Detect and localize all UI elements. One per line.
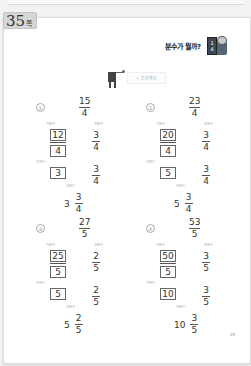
problem-1: ① 15 4 가분수 진분수 12 4 3 4 자연수 3 3 4 대분수 3 … [36, 97, 136, 217]
page-tag-suffix: 쪽 [26, 18, 32, 28]
mixed-number-result: 5 2 5 [64, 314, 83, 335]
label-improper: 가분수 [46, 242, 55, 247]
numerator: 2 [93, 252, 99, 261]
numerator: 3 [203, 165, 209, 174]
numerator: 3 [76, 193, 82, 202]
boxed-denominator: 5 [160, 266, 176, 278]
natural-number: 10 [160, 288, 176, 300]
whole: 10 [174, 320, 185, 330]
numerator: 3 [203, 131, 209, 140]
problem-2: ② 23 4 가분수 진분수 20 4 3 4 자연수 5 3 4 대분수 5 … [146, 97, 246, 217]
numerator: 2 [93, 286, 99, 295]
denominator: 4 [76, 205, 82, 214]
numerator: 3 [203, 286, 209, 295]
numerator: 2 [76, 314, 82, 323]
denominator: 4 [93, 177, 99, 186]
problem-4: ④ 53 5 가분수 진분수 50 5 3 5 자연수 10 3 5 대분수 1… [146, 218, 246, 338]
whole: 5 [174, 199, 180, 209]
label-mixed: 대분수 [66, 183, 75, 188]
previous-page-edge [8, 0, 244, 5]
boxed-denominator: 5 [50, 266, 66, 278]
numerator: 3 [192, 314, 198, 323]
label-proper: 진분수 [204, 242, 213, 247]
boxed-numerator: 50 [160, 250, 176, 262]
label-natural: 자연수 [36, 280, 45, 285]
section-label: ✎ 인공계산 [127, 72, 166, 84]
denominator: 5 [76, 326, 82, 335]
denominator: 4 [192, 109, 198, 118]
denominator: 5 [192, 230, 198, 239]
natural-number: 5 [160, 167, 176, 179]
whole: 5 [64, 320, 70, 330]
label-mixed: 대분수 [176, 304, 185, 309]
numerator: 23 [189, 97, 200, 106]
label-natural: 자연수 [146, 159, 155, 164]
proper-fraction: 3 4 [202, 131, 210, 152]
mixed-number-result: 10 3 5 [174, 314, 198, 335]
mixed-number-result: 3 3 4 [64, 193, 83, 214]
proper-fraction-2: 3 5 [202, 286, 210, 307]
denominator: 4 [82, 109, 88, 118]
boxed-numerator: 25 [50, 250, 66, 262]
denominator: 5 [93, 298, 99, 307]
numerator: 53 [189, 218, 200, 227]
denominator: 4 [203, 177, 209, 186]
numerator: 3 [186, 193, 192, 202]
mixed-number-result: 5 3 4 [174, 193, 193, 214]
whole: 3 [64, 199, 70, 209]
label-natural: 자연수 [146, 280, 155, 285]
label-natural: 자연수 [36, 159, 45, 164]
natural-number: 3 [50, 167, 66, 179]
proper-fraction: 3 5 [202, 252, 210, 273]
page-tag-number: 35 [6, 13, 25, 29]
problem-number: ④ [146, 224, 155, 233]
improper-fraction: 27 5 [79, 218, 90, 239]
natural-number: 5 [50, 288, 66, 300]
page-number: 35 [230, 332, 235, 337]
boxed-numerator: 12 [50, 129, 66, 141]
denominator: 5 [82, 230, 88, 239]
improper-fraction: 15 4 [79, 97, 90, 118]
flag-icon [108, 68, 124, 88]
problem-number: ③ [36, 224, 45, 233]
problem-number: ② [146, 103, 155, 112]
label-proper: 진분수 [204, 121, 213, 126]
problem-3: ③ 27 5 가분수 진분수 25 5 2 5 자연수 5 2 5 대분수 5 … [36, 218, 136, 338]
denominator: 4 [93, 143, 99, 152]
label-mixed: 대분수 [176, 183, 185, 188]
boxed-denominator: 4 [160, 145, 176, 157]
label-improper: 가분수 [46, 121, 55, 126]
numerator: 3 [93, 165, 99, 174]
page-tag: 35 쪽 [3, 12, 37, 29]
label-improper: 가분수 [156, 121, 165, 126]
problem-number: ① [36, 103, 45, 112]
numerator: 15 [79, 97, 90, 106]
page-title: 분수가 뭘까? [165, 41, 202, 51]
denominator: 4 [186, 205, 192, 214]
numerator: 3 [93, 131, 99, 140]
denominator: 4 [203, 143, 209, 152]
denominator: 5 [93, 264, 99, 273]
improper-fraction: 23 4 [189, 97, 200, 118]
improper-fraction: 53 5 [189, 218, 200, 239]
header: 분수가 뭘까? 14 [165, 35, 230, 57]
denominator: 5 [203, 298, 209, 307]
label-proper: 진분수 [94, 121, 103, 126]
proper-fraction: 3 4 [92, 131, 100, 152]
proper-fraction-2: 3 4 [202, 165, 210, 186]
denominator: 5 [203, 264, 209, 273]
proper-fraction-2: 2 5 [92, 286, 100, 307]
proper-fraction: 2 5 [92, 252, 100, 273]
label-proper: 진분수 [94, 242, 103, 247]
label-improper: 가분수 [156, 242, 165, 247]
label-mixed: 대분수 [66, 304, 75, 309]
denominator: 5 [192, 326, 198, 335]
fraction-card-character-icon: 14 [205, 35, 229, 57]
numerator: 3 [203, 252, 209, 261]
proper-fraction-2: 3 4 [92, 165, 100, 186]
boxed-numerator: 20 [160, 129, 176, 141]
section-header: ✎ 인공계산 [108, 68, 166, 88]
boxed-denominator: 4 [50, 145, 66, 157]
numerator: 27 [79, 218, 90, 227]
